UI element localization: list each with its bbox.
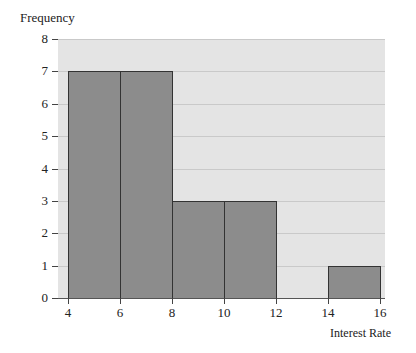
y-tick	[52, 39, 58, 40]
y-tick	[52, 233, 58, 234]
y-tick-label: 1	[28, 259, 48, 273]
x-tick	[224, 298, 225, 304]
x-tick	[328, 298, 329, 304]
x-tick	[276, 298, 277, 304]
y-tick	[52, 266, 58, 267]
y-tick	[52, 71, 58, 72]
x-axis-line	[58, 298, 385, 299]
x-tick	[380, 298, 381, 304]
x-tick-label: 6	[105, 305, 135, 321]
x-tick-label: 10	[209, 305, 239, 321]
x-tick	[172, 298, 173, 304]
y-tick-label: 5	[28, 129, 48, 143]
x-tick-label: 8	[157, 305, 187, 321]
y-tick	[52, 136, 58, 137]
histogram-bar	[120, 71, 173, 299]
x-tick-label: 16	[365, 305, 395, 321]
y-tick-label: 3	[28, 194, 48, 208]
y-tick-label: 0	[28, 291, 48, 305]
x-tick-label: 4	[53, 305, 83, 321]
y-axis-title: Frequency	[20, 10, 75, 26]
x-tick	[68, 298, 69, 304]
histogram-bar	[172, 201, 225, 299]
histogram-bar	[224, 201, 277, 299]
x-tick-label: 12	[261, 305, 291, 321]
y-tick	[52, 169, 58, 170]
y-tick	[52, 298, 58, 299]
y-tick	[52, 104, 58, 105]
x-axis-title: Interest Rate	[330, 326, 391, 341]
y-tick-label: 8	[28, 32, 48, 46]
y-tick	[52, 201, 58, 202]
histogram-bar	[328, 266, 381, 299]
y-tick-label: 7	[28, 64, 48, 78]
y-tick-label: 6	[28, 97, 48, 111]
y-tick-label: 4	[28, 162, 48, 176]
x-tick	[120, 298, 121, 304]
gridline	[58, 39, 385, 40]
x-tick-label: 14	[313, 305, 343, 321]
y-tick-label: 2	[28, 226, 48, 240]
histogram-bar	[68, 71, 121, 299]
